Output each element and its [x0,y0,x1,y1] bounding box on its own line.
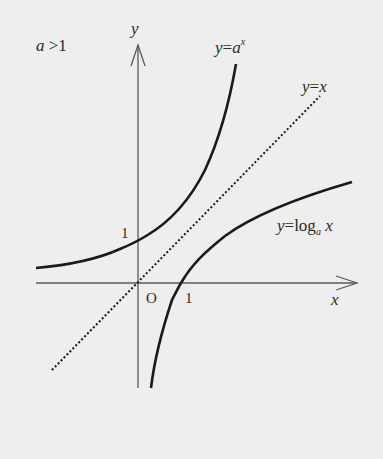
origin-label: O [146,291,157,306]
x-axis-label: x [331,291,339,308]
condition-label: a >1 [36,37,67,54]
logarithm-curve [151,182,352,388]
x-tick-label: 1 [185,291,193,306]
y-axis-label: y [131,20,139,37]
logarithm-label: y=loga x [277,217,333,234]
exponential-label: y=ax [215,39,245,56]
identity-label: y=x [302,78,327,95]
y-tick-label: 1 [121,226,129,241]
diagram-canvas: a >1 y x O 1 1 y=ax y=x y=loga x [0,0,383,459]
exponential-curve [36,64,236,268]
